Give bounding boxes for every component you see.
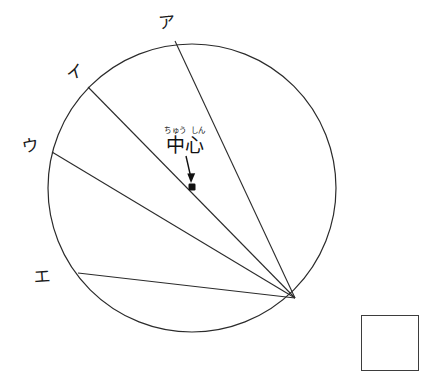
center-furigana-first: ちゅう	[164, 126, 187, 135]
center-furigana-second: しん	[191, 126, 206, 135]
center-annotation: ちゅうしん 中心	[164, 127, 206, 155]
point-label-u: ウ	[21, 137, 41, 157]
geometry-figure: ア イ ウ エ ちゅうしん 中心	[0, 0, 435, 377]
center-label-text: 中心	[164, 136, 206, 155]
chord-to-a	[175, 41, 295, 298]
center-point-dot	[189, 184, 196, 191]
point-label-a: ア	[157, 13, 176, 32]
answer-box[interactable]	[361, 315, 419, 371]
center-pointer-arrow-head	[187, 173, 195, 183]
chord-to-e	[78, 273, 295, 298]
point-label-e: エ	[33, 267, 51, 285]
center-furigana: ちゅうしん	[164, 127, 206, 135]
